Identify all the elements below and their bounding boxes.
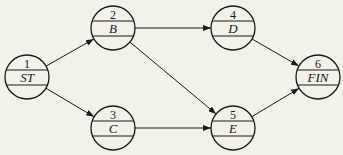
edge-4-to-6 bbox=[252, 39, 299, 66]
edge-1-to-2 bbox=[46, 39, 94, 66]
node-label: ST bbox=[20, 70, 35, 85]
diagram-svg: 1ST2B3C4D5E6FIN bbox=[0, 0, 343, 155]
node-6: 6FIN bbox=[296, 55, 340, 99]
node-3: 3C bbox=[91, 106, 135, 150]
node-1: 1ST bbox=[5, 55, 49, 99]
edge-1-to-3 bbox=[46, 88, 94, 117]
node-number: 3 bbox=[110, 108, 116, 122]
node-number: 6 bbox=[315, 57, 321, 71]
node-label: E bbox=[228, 121, 237, 136]
edge-5-to-6 bbox=[252, 88, 299, 116]
edge-2-to-5 bbox=[130, 42, 216, 114]
node-2: 2B bbox=[91, 6, 135, 50]
network-diagram: 1ST2B3C4D5E6FIN bbox=[0, 0, 343, 155]
node-number: 4 bbox=[230, 8, 236, 22]
node-label: B bbox=[109, 21, 117, 36]
node-number: 5 bbox=[230, 108, 236, 122]
node-label: D bbox=[227, 21, 238, 36]
node-5: 5E bbox=[211, 106, 255, 150]
node-number: 2 bbox=[110, 8, 116, 22]
node-number: 1 bbox=[24, 57, 30, 71]
node-label: FIN bbox=[307, 70, 330, 85]
node-4: 4D bbox=[211, 6, 255, 50]
edges-group bbox=[46, 28, 299, 128]
node-label: C bbox=[109, 121, 118, 136]
